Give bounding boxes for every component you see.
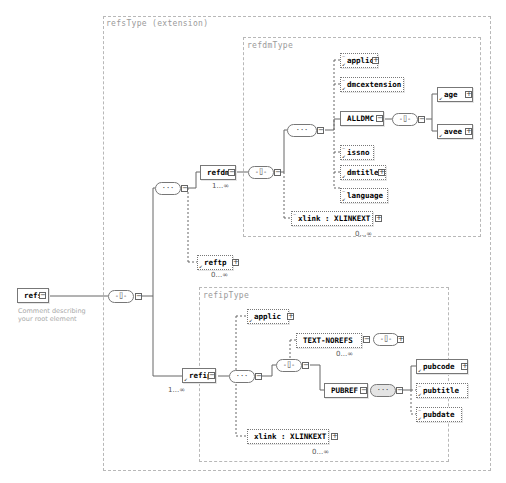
- expand-icon[interactable]: +: [232, 259, 239, 266]
- element-language[interactable]: ~↙ language: [340, 188, 388, 203]
- cardinality-reftp: 0...∞: [211, 271, 228, 279]
- element-applic-refip[interactable]: ↙ applic: [247, 309, 289, 324]
- collapse-icon[interactable]: −: [396, 387, 403, 394]
- expand-icon[interactable]: +: [287, 313, 294, 320]
- sequence-compositor-icon[interactable]: ···: [287, 124, 317, 137]
- expand-icon[interactable]: +: [378, 169, 385, 176]
- expand-icon[interactable]: +: [331, 433, 338, 440]
- cardinality-refdm: 1...∞: [212, 182, 229, 190]
- collapse-icon[interactable]: −: [376, 115, 383, 122]
- expand-icon[interactable]: +: [465, 128, 472, 135]
- expand-icon[interactable]: +: [372, 57, 379, 64]
- element-dmcextension[interactable]: ~↙ dmcextension: [340, 77, 404, 92]
- element-xlink-refdm[interactable]: ~ xlink : XLINKEXT: [291, 211, 373, 226]
- cardinality-text-norefs: 0...∞: [336, 350, 353, 358]
- collapse-icon[interactable]: −: [228, 169, 235, 176]
- cardinality-xlink-refip: 0...∞: [312, 448, 329, 456]
- sequence-compositor-icon[interactable]: ···: [229, 370, 255, 383]
- choice-compositor-icon[interactable]: -⌷-: [373, 333, 399, 346]
- collapse-icon[interactable]: −: [208, 372, 215, 379]
- element-pubtitle[interactable]: ~↙ pubtitle: [416, 383, 468, 398]
- element-pubdate[interactable]: ~↙ pubdate: [416, 407, 462, 422]
- collapse-icon[interactable]: −: [317, 127, 324, 134]
- collapse-icon[interactable]: −: [39, 292, 46, 299]
- collapse-icon[interactable]: −: [274, 169, 281, 176]
- collapse-icon[interactable]: −: [302, 362, 309, 369]
- root-annotation: Comment describing your root element: [18, 307, 98, 323]
- expand-icon[interactable]: +: [465, 91, 472, 98]
- collapse-icon[interactable]: −: [135, 293, 142, 300]
- sequence-compositor-icon[interactable]: ···: [155, 182, 181, 195]
- expand-icon[interactable]: +: [397, 336, 404, 343]
- collapse-icon[interactable]: −: [418, 116, 425, 123]
- element-issno[interactable]: ~↙ issno: [340, 145, 374, 160]
- choice-compositor-icon[interactable]: -⌷-: [392, 113, 418, 126]
- collapse-icon[interactable]: −: [360, 387, 367, 394]
- element-reftp[interactable]: ↙ reftp: [197, 255, 233, 270]
- expand-icon[interactable]: +: [461, 363, 468, 370]
- choice-compositor-icon[interactable]: -⌷-: [248, 166, 274, 179]
- cardinality-refip: 1...∞: [168, 386, 185, 394]
- expand-icon[interactable]: +: [375, 215, 382, 222]
- collapse-icon[interactable]: −: [181, 185, 188, 192]
- cardinality-xlink-refdm: 0...∞: [355, 230, 372, 238]
- element-xlink-refip[interactable]: xlink : XLINKEXT: [247, 429, 329, 444]
- sequence-compositor-icon[interactable]: ···: [370, 384, 396, 397]
- choice-compositor-icon[interactable]: -⌷-: [276, 359, 302, 372]
- element-text-norefs[interactable]: TEXT-NOREFS: [296, 333, 362, 348]
- collapse-icon[interactable]: −: [363, 336, 370, 343]
- collapse-icon[interactable]: −: [255, 373, 262, 380]
- choice-compositor-icon[interactable]: -⌷-: [108, 290, 134, 303]
